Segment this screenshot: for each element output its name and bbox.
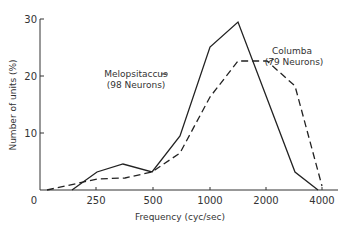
y-axis-label: Number of units (%): [8, 59, 18, 150]
series-columba-line: [47, 61, 322, 190]
svg-text:(98 Neurons): (98 Neurons): [107, 80, 166, 90]
y-tick-20: 20: [24, 71, 37, 82]
x-tick-0: 0: [31, 195, 37, 206]
x-axis: 0 250 500 1000 2000 4000 Frequency (cyc/…: [31, 187, 338, 222]
svg-text:(79 Neurons): (79 Neurons): [265, 57, 324, 67]
x-tick-2000: 2000: [253, 195, 278, 206]
x-tick-250: 250: [86, 195, 105, 206]
svg-text:Melopsitaccus: Melopsitaccus: [104, 69, 168, 79]
y-tick-10: 10: [24, 128, 37, 139]
annotation-columba: Columba (79 Neurons): [265, 46, 324, 67]
annotation-melopsitaccus: Melopsitaccus (98 Neurons): [104, 69, 168, 90]
line-chart: 30 20 10 Number of units (%) 0 250 500 1…: [0, 0, 354, 230]
svg-text:Columba: Columba: [272, 46, 312, 56]
x-tick-1000: 1000: [197, 195, 222, 206]
x-tick-500: 500: [143, 195, 162, 206]
y-tick-30: 30: [24, 14, 37, 25]
x-tick-4000: 4000: [309, 195, 334, 206]
y-axis: 30 20 10 Number of units (%): [8, 14, 44, 190]
x-axis-label: Frequency (cyc/sec): [135, 212, 225, 222]
